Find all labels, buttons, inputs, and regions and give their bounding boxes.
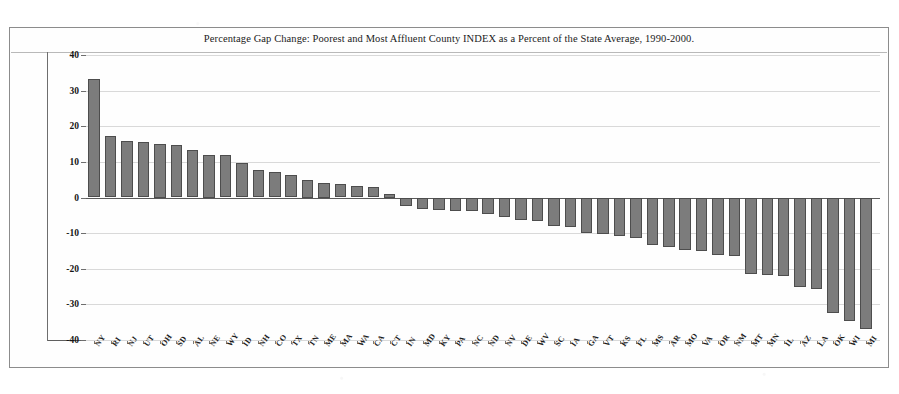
bar [302,180,313,198]
bar [712,198,723,255]
bar [482,198,493,214]
bar [138,142,149,198]
bar [515,198,526,220]
bar [433,198,444,210]
bar [335,184,346,198]
bar [499,198,510,218]
title-divider [11,52,887,53]
bar [466,198,477,212]
bar [663,198,674,248]
bar [860,198,871,329]
bar [318,183,329,197]
bar [417,198,428,209]
bar [565,198,576,228]
bar [762,198,773,276]
bar [450,198,461,211]
bar [220,155,231,197]
bar [351,186,362,198]
bar [679,198,690,250]
bar [121,141,132,197]
bar [285,175,296,197]
bar [745,198,756,275]
bar [88,79,99,197]
chart-frame: Percentage Gap Change: Poorest and Most … [9,27,889,368]
bar [827,198,838,314]
bar [696,198,707,251]
bar [253,170,264,198]
bar [614,198,625,236]
bar [778,198,789,276]
bar [400,198,411,207]
bar [187,150,198,197]
bar [794,198,805,287]
bar [548,198,559,227]
bar [811,198,822,289]
bar [154,144,165,197]
bar [532,198,543,222]
bar [269,172,280,198]
bar [844,198,855,321]
bar [368,187,379,197]
bar [236,163,247,197]
bar [630,198,641,239]
bar-series [48,55,880,340]
bar [581,198,592,233]
bar [105,136,116,198]
chart-title: Percentage Gap Change: Poorest and Most … [10,33,888,44]
bar [597,198,608,234]
x-tick-label-group: NYRINJUTOHSDALNEWYIDNHCOTXTNMEMAWACACTIN… [48,341,880,369]
plot-area: 403020100-10-20-30-40 [48,55,880,340]
bar [384,194,395,198]
bar [171,145,182,197]
bar [647,198,658,245]
bar [203,155,214,198]
bar [729,198,740,256]
figure-canvas: Percentage Gap Change: Poorest and Most … [0,0,899,394]
